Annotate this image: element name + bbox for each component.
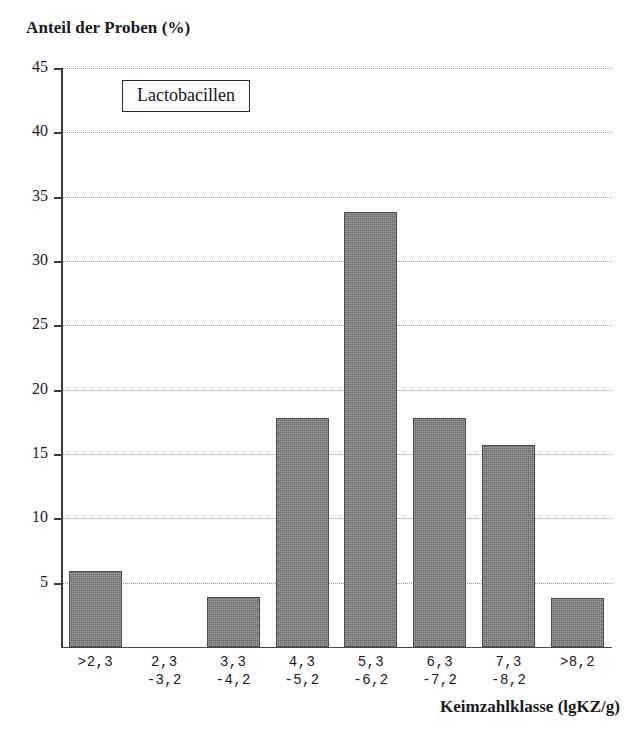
y-tick-35 <box>54 197 63 199</box>
y-tick-label-10: 10 <box>4 508 48 526</box>
gridline-35 <box>61 197 612 198</box>
y-tick-10 <box>54 518 63 520</box>
bar <box>207 597 260 647</box>
x-axis-line <box>61 647 612 648</box>
x-tick-label-line1: >8,2 <box>560 654 595 670</box>
y-tick-40 <box>54 132 63 134</box>
y-tick-25 <box>54 325 63 327</box>
x-tick-label-line1: 3,3 <box>220 654 246 670</box>
gridline-40 <box>61 132 612 133</box>
y-tick-label-30: 30 <box>4 251 48 269</box>
x-tick-label: >2,3 <box>61 653 130 671</box>
y-tick-20 <box>54 390 63 392</box>
x-tick-label: 2,3-3,2 <box>130 653 199 690</box>
y-tick-30 <box>54 261 63 263</box>
y-tick-label-20: 20 <box>4 380 48 398</box>
y-tick-label-25: 25 <box>4 315 48 333</box>
x-tick-label-line2: -5,2 <box>268 671 337 689</box>
y-tick-label-15: 15 <box>4 444 48 462</box>
x-tick-label-line2: -6,2 <box>337 671 406 689</box>
y-tick-label-40: 40 <box>4 122 48 140</box>
y-tick-5 <box>54 583 63 585</box>
gridline-45 <box>61 68 612 69</box>
y-tick-label-35: 35 <box>4 187 48 205</box>
y-tick-45 <box>54 68 63 70</box>
x-tick-label-line1: 4,3 <box>289 654 315 670</box>
gridline-30 <box>61 261 612 262</box>
x-tick-label-line2: -8,2 <box>474 671 543 689</box>
bar <box>69 571 122 647</box>
plot-area <box>61 68 612 647</box>
x-tick-label-line2: -3,2 <box>130 671 199 689</box>
y-tick-label-5: 5 <box>4 573 48 591</box>
x-tick-label: 7,3-8,2 <box>474 653 543 690</box>
x-tick-label-line2: -7,2 <box>405 671 474 689</box>
bar <box>413 418 466 647</box>
chart-figure: Anteil der Proben (%) 45403530252015105 … <box>0 0 640 739</box>
y-tick-label-45: 45 <box>4 58 48 76</box>
x-tick-label: 3,3-4,2 <box>199 653 268 690</box>
bar <box>551 598 604 647</box>
x-tick-label-line2: -4,2 <box>199 671 268 689</box>
gridline-20 <box>61 390 612 391</box>
x-tick-label-line1: 7,3 <box>495 654 521 670</box>
x-tick-label-line1: 2,3 <box>151 654 177 670</box>
bar <box>482 445 535 647</box>
x-tick-label-line1: 6,3 <box>427 654 453 670</box>
x-tick-label: 5,3-6,2 <box>337 653 406 690</box>
x-tick-label: 6,3-7,2 <box>405 653 474 690</box>
x-tick-label: >8,2 <box>543 653 612 671</box>
x-tick-label-line1: 5,3 <box>358 654 384 670</box>
x-axis-title: Keimzahlklasse (lgKZ/g) <box>440 697 620 717</box>
y-axis-title: Anteil der Proben (%) <box>26 18 190 38</box>
x-tick-label-line1: >2,3 <box>78 654 113 670</box>
bar <box>344 212 397 647</box>
bar <box>276 418 329 647</box>
gridline-25 <box>61 325 612 326</box>
y-tick-15 <box>54 454 63 456</box>
x-tick-label: 4,3-5,2 <box>268 653 337 690</box>
legend-lactobacillen: Lactobacillen <box>122 80 250 112</box>
